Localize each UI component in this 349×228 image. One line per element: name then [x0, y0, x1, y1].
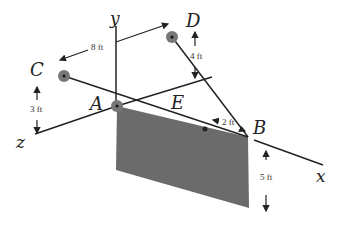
point-a-label: A: [88, 93, 103, 114]
dim-5ft: 5 ft: [260, 172, 273, 182]
dim-3ft: 3 ft: [30, 104, 43, 114]
point-d-label: D: [185, 10, 201, 31]
point-c-label: C: [30, 59, 44, 80]
dim-2ft: 2 ft: [222, 117, 235, 127]
point-e-label: E: [170, 92, 184, 113]
point-e-dot: [203, 127, 208, 132]
z-axis: [35, 106, 117, 134]
dim-8ft: 8 ft: [91, 42, 104, 52]
statics-diagram: y x z A B C D E 8 ft 3 ft 4 ft 2 ft 5 ft: [0, 0, 349, 228]
x-axis: [254, 140, 323, 165]
y-axis-label: y: [109, 8, 120, 28]
point-b-label: B: [252, 117, 266, 138]
x-axis-label: x: [316, 166, 326, 186]
dim-4ft: 4 ft: [190, 51, 203, 61]
reference-line: [117, 77, 212, 106]
z-axis-label: z: [15, 132, 26, 152]
